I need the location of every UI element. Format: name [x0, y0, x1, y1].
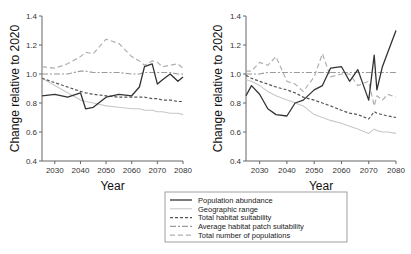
y-tick-label: 1.0 — [230, 70, 242, 79]
right-chart-panel: 0.40.60.81.01.21.42030204020502060207020… — [211, 12, 405, 193]
y-tick-label: 0.8 — [26, 99, 38, 108]
x-tick-label: 2080 — [387, 166, 405, 175]
series-line-population-abundance — [42, 64, 183, 109]
x-tick-label: 2060 — [123, 166, 141, 175]
y-axis-label: Change relative to 2020 — [8, 24, 22, 152]
x-tick-label: 2040 — [278, 166, 296, 175]
legend-item-label: Total habitat suitability — [198, 213, 272, 222]
x-tick-label: 2060 — [333, 166, 351, 175]
y-tick-label: 0.4 — [230, 157, 242, 166]
left-chart-panel: 0.40.60.81.01.21.42030204020502060207020… — [8, 12, 192, 193]
legend-item-label: Geographic range — [198, 205, 258, 214]
y-tick-label: 1.4 — [26, 12, 38, 21]
series-line-total-habitat-suitability — [246, 75, 396, 119]
x-tick-label: 2050 — [97, 166, 115, 175]
chart-legend: Population abundanceGeographic rangeTota… — [165, 192, 347, 242]
x-tick-label: 2040 — [72, 166, 90, 175]
series-line-geographic-range — [246, 80, 396, 134]
legend-item-label: Total number of populations — [198, 231, 290, 240]
x-tick-label: 2030 — [46, 166, 64, 175]
x-tick-label: 2070 — [148, 166, 166, 175]
series-line-average-habitat-patch-suitability — [42, 71, 183, 74]
x-tick-label: 2080 — [174, 166, 192, 175]
x-axis-label: Year — [309, 179, 333, 193]
y-tick-label: 1.2 — [230, 41, 242, 50]
series-line-total-number-of-populations — [42, 39, 183, 68]
y-tick-label: 0.4 — [26, 157, 38, 166]
x-axis-label: Year — [100, 179, 124, 193]
chart-canvas: 0.40.60.81.01.21.42030204020502060207020… — [0, 0, 411, 254]
y-tick-label: 1.0 — [26, 70, 38, 79]
legend-item-label: Population abundance — [198, 196, 273, 205]
x-tick-label: 2050 — [305, 166, 323, 175]
x-tick-label: 2030 — [251, 166, 269, 175]
y-tick-label: 0.6 — [26, 128, 38, 137]
y-tick-label: 1.2 — [26, 41, 38, 50]
y-tick-label: 0.6 — [230, 128, 242, 137]
legend-item-label: Average habitat patch suitability — [198, 222, 304, 231]
x-tick-label: 2070 — [360, 166, 378, 175]
y-axis-label: Change relative to 2020 — [211, 24, 225, 152]
y-tick-label: 1.4 — [230, 12, 242, 21]
y-tick-label: 0.8 — [230, 99, 242, 108]
series-line-average-habitat-patch-suitability — [246, 73, 396, 75]
